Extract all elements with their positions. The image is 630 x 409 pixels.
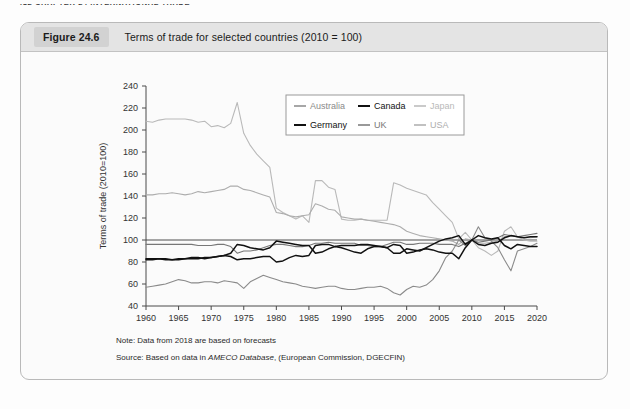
legend-label-germany: Germany [310, 120, 348, 130]
y-tick-label: 120 [123, 213, 138, 223]
terms-of-trade-line-chart: 4060801001201401601802002202401960196519… [21, 51, 609, 381]
x-tick-label: 1980 [266, 313, 286, 323]
x-tick-label: 2015 [494, 313, 514, 323]
legend-label-australia: Australia [310, 101, 345, 111]
y-axis-title: Terms of trade (2010=100) [98, 143, 108, 249]
legend-label-uk: UK [374, 120, 387, 130]
y-tick-label: 140 [123, 191, 138, 201]
y-tick-label: 220 [123, 103, 138, 113]
legend-label-canada: Canada [374, 101, 406, 111]
x-tick-label: 2000 [397, 313, 417, 323]
y-tick-label: 80 [128, 257, 138, 267]
figure-caption-bar: Figure 24.6 Terms of trade for selected … [21, 23, 607, 52]
source-suffix: , (European Commission, DGECFIN) [274, 353, 405, 362]
figure-note: Note: Data from 2018 are based on foreca… [116, 336, 276, 345]
x-tick-label: 1965 [169, 313, 189, 323]
x-tick-label: 1985 [299, 313, 319, 323]
source-database-name: AMECO Database [208, 353, 274, 362]
figure-title: Terms of trade for selected countries (2… [125, 31, 363, 43]
y-tick-label: 240 [123, 81, 138, 91]
source-prefix: Source: Based on data in [116, 353, 208, 362]
x-tick-label: 1975 [234, 313, 254, 323]
figure-container: Figure 24.6 Terms of trade for selected … [20, 22, 608, 380]
y-tick-label: 60 [128, 279, 138, 289]
y-tick-label: 200 [123, 125, 138, 135]
legend-label-japan: Japan [430, 101, 455, 111]
series-line-australia [146, 227, 537, 295]
y-tick-label: 160 [123, 169, 138, 179]
x-tick-label: 2020 [527, 313, 547, 323]
x-tick-label: 1990 [331, 313, 351, 323]
x-tick-label: 2005 [429, 313, 449, 323]
y-tick-label: 40 [128, 301, 138, 311]
x-tick-label: 2010 [462, 313, 482, 323]
figure-number-badge: Figure 24.6 [34, 27, 109, 47]
x-tick-label: 1970 [201, 313, 221, 323]
running-head: 412 CHAPTER 24 INTERNATIONAL TRADE [18, 0, 190, 7]
y-tick-label: 180 [123, 147, 138, 157]
figure-source: Source: Based on data in AMECO Database,… [116, 353, 405, 362]
x-tick-label: 1995 [364, 313, 384, 323]
legend-label-usa: USA [430, 120, 449, 130]
x-tick-label: 1960 [136, 313, 156, 323]
chart-area: 4060801001201401601802002202401960196519… [21, 51, 607, 379]
y-tick-label: 100 [123, 235, 138, 245]
